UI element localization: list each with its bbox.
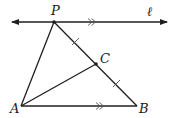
point-C bbox=[94, 62, 98, 66]
geometry-diagram: P ℓ C A B bbox=[0, 0, 176, 118]
label-A: A bbox=[9, 101, 19, 116]
point-P bbox=[52, 20, 56, 24]
segment-AC bbox=[21, 64, 96, 106]
label-line-l: ℓ bbox=[147, 4, 153, 19]
label-P: P bbox=[50, 3, 60, 18]
label-B: B bbox=[138, 101, 149, 116]
segment-PA bbox=[21, 22, 54, 106]
label-C: C bbox=[100, 51, 110, 66]
